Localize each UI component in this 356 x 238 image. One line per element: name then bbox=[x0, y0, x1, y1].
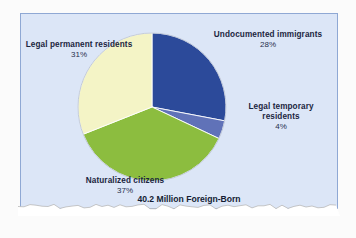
slice-label-legal-permanent-residents: Legal permanent residents 31% bbox=[25, 40, 133, 60]
chart-panel: Legal permanent residents 31% Undocument… bbox=[20, 13, 338, 209]
slice-label-naturalized-citizens: Naturalized citizens 37% bbox=[57, 176, 193, 196]
slice-label-percent: 4% bbox=[229, 122, 333, 132]
chart-caption: 40.2 Million Foreign-Born bbox=[109, 194, 269, 204]
slice-label-text: Legal permanent residents bbox=[25, 40, 133, 50]
slice-label-text: Legal temporary residents bbox=[229, 102, 333, 122]
slice-label-percent: 31% bbox=[25, 50, 133, 60]
slice-label-text: Undocumented immigrants bbox=[199, 30, 337, 40]
slice-label-undocumented-immigrants: Undocumented immigrants 28% bbox=[199, 30, 337, 50]
slice-label-legal-temporary-residents: Legal temporary residents 4% bbox=[229, 102, 333, 132]
figure-root: Legal permanent residents 31% Undocument… bbox=[0, 0, 356, 238]
slice-label-percent: 28% bbox=[199, 40, 337, 50]
slice-label-text: Naturalized citizens bbox=[57, 176, 193, 186]
